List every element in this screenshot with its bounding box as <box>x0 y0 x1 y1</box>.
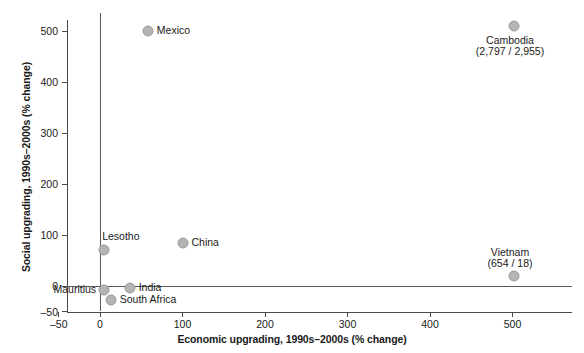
data-point-mexico[interactable] <box>142 26 153 37</box>
x-axis-spine <box>67 312 572 313</box>
point-label-vietnam: Vietnam (654 / 18) <box>488 247 533 270</box>
y-tick <box>62 31 67 32</box>
y-tick <box>62 133 67 134</box>
data-point-vietnam[interactable] <box>509 270 520 281</box>
y-axis-title: Social upgrading, 1990s–2000s (% change) <box>20 47 32 287</box>
data-point-lesotho[interactable] <box>99 245 110 256</box>
y-tick-label: –50 <box>0 306 58 318</box>
x-tick-label: 400 <box>421 318 439 330</box>
x-tick-label: 500 <box>504 318 522 330</box>
x-tick <box>347 312 348 317</box>
x-tick <box>58 312 59 317</box>
x-tick-label: 200 <box>256 318 274 330</box>
data-point-south-africa[interactable] <box>105 294 116 305</box>
x-tick <box>512 312 513 317</box>
plot-area: –500100200300400500 –500100200300400500 … <box>0 0 584 353</box>
x-tick-label: 300 <box>339 318 357 330</box>
point-label-mexico: Mexico <box>157 25 190 37</box>
data-point-cambodia[interactable] <box>509 20 520 31</box>
point-label-india: India <box>139 282 162 294</box>
x-tick <box>100 312 101 317</box>
y-tick <box>62 235 67 236</box>
point-label-mauritius: Mauritius <box>54 284 97 296</box>
y-axis-spine <box>67 20 68 312</box>
x-axis-title: Economic upgrading, 1990s–2000s (% chang… <box>0 333 584 345</box>
y-tick-label: 500 <box>0 25 58 37</box>
point-label-china: China <box>192 237 219 249</box>
x-tick-label: 0 <box>97 318 103 330</box>
y-tick <box>62 184 67 185</box>
y-tick <box>62 82 67 83</box>
zero-reference-line-vertical <box>100 13 101 311</box>
point-label-south-africa: South Africa <box>120 294 177 306</box>
x-tick <box>430 312 431 317</box>
x-tick <box>182 312 183 317</box>
point-label-cambodia: Cambodia (2,797 / 2,955) <box>476 35 544 58</box>
data-point-india[interactable] <box>124 283 135 294</box>
scatter-chart: –500100200300400500 –500100200300400500 … <box>0 0 584 353</box>
x-tick-label: 100 <box>174 318 192 330</box>
data-point-china[interactable] <box>177 238 188 249</box>
y-tick <box>62 311 67 312</box>
point-label-lesotho: Lesotho <box>102 231 139 243</box>
x-tick-label: –50 <box>50 318 68 330</box>
x-tick <box>265 312 266 317</box>
